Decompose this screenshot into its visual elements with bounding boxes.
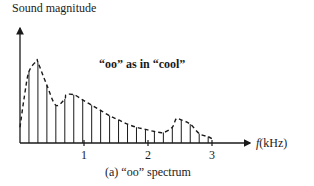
x-tick-label-1: 1	[74, 148, 94, 163]
harmonic-lines	[29, 62, 208, 143]
vowel-annotation: “oo” as in “cool”	[99, 57, 185, 72]
y-axis-label: Sound magnitude	[12, 1, 96, 16]
x-axis-label: f(kHz)	[256, 136, 287, 151]
figure-caption: (a) “oo” spectrum	[105, 165, 191, 180]
x-tick-label-3: 3	[202, 148, 222, 163]
x-axis-unit: (kHz)	[259, 136, 287, 150]
x-tick-label-2: 2	[138, 148, 158, 163]
